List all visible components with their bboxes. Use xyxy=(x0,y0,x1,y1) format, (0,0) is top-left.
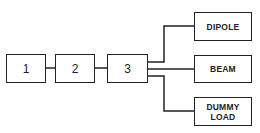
block-2-label: 2 xyxy=(72,62,79,76)
dummy-load-label-line1: DUMMY xyxy=(206,102,239,112)
dipole-label: DIPOLE xyxy=(207,22,240,32)
dipole-block: DIPOLE xyxy=(194,12,252,41)
block-3: 3 xyxy=(107,54,148,83)
beam-label: BEAM xyxy=(210,64,236,74)
block-1: 1 xyxy=(6,54,46,83)
block-diagram: 1 2 3 DIPOLE BEAM DUMMY LOAD xyxy=(0,0,260,133)
dummy-load-block: DUMMY LOAD xyxy=(194,97,252,126)
block-1-label: 1 xyxy=(23,62,30,76)
block-3-label: 3 xyxy=(124,62,131,76)
beam-block: BEAM xyxy=(194,55,252,83)
block-2: 2 xyxy=(55,54,95,83)
dummy-load-label-line2: LOAD xyxy=(211,112,236,122)
